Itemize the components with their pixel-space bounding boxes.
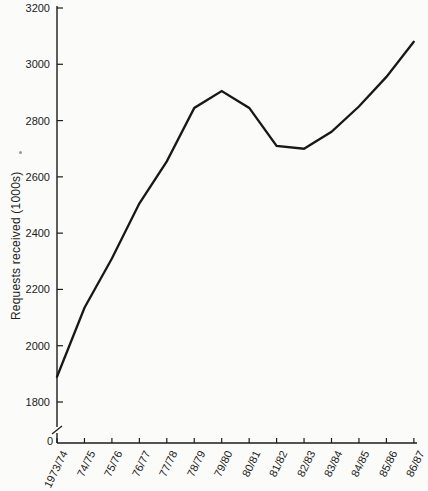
requests-line-series [57, 42, 414, 377]
axis-break-mark [52, 426, 62, 434]
y-tick-label: 2000 [14, 340, 50, 352]
y-tick-label: 2800 [14, 115, 50, 127]
y-tick-label: 1800 [14, 396, 50, 408]
plot-area [0, 0, 428, 491]
y-tick-label: 2600 [14, 171, 50, 183]
origin-label: 0 [38, 435, 53, 447]
y-axis-title: Requests received (1000s) [9, 172, 23, 320]
line-chart-figure: Requests received (1000s) 18002000220024… [0, 0, 428, 491]
scan-speck [19, 151, 22, 154]
y-tick-label: 2400 [14, 227, 50, 239]
y-tick-label: 3000 [14, 58, 50, 70]
y-tick-label: 3200 [14, 2, 50, 14]
y-tick-label: 2200 [14, 283, 50, 295]
